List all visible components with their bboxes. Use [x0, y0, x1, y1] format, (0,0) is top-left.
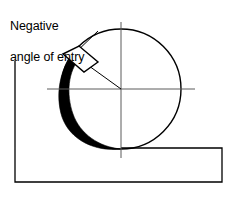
annotation-label: Negative angle of entry — [10, 4, 130, 81]
figure-canvas: Negative angle of entry — [0, 0, 236, 197]
annotation-label-line-1: Negative — [10, 19, 130, 34]
annotation-label-line-2: angle of entry — [10, 50, 130, 65]
